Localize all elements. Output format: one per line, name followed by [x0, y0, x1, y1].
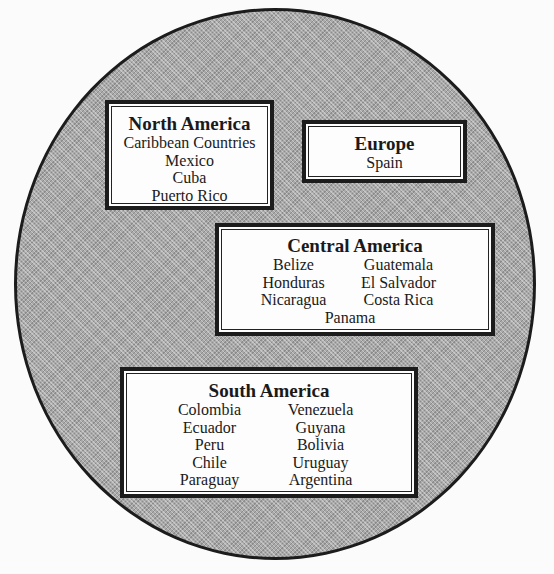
region-item: Guyana — [265, 419, 376, 437]
region-item: Cuba — [109, 169, 270, 187]
region-item: Caribbean Countries — [109, 134, 270, 152]
region-item: Colombia — [154, 401, 265, 419]
region-title: South America — [124, 381, 414, 401]
region-item: Puerto Rico — [109, 187, 270, 205]
region-item: Uruguay — [265, 454, 376, 472]
region-item: Peru — [154, 436, 265, 454]
region-item: Spain — [306, 154, 463, 172]
region-title: Europe — [306, 134, 463, 154]
region-item: Panama — [219, 309, 491, 327]
region-item: Venezuela — [265, 401, 376, 419]
region-item: Belize — [241, 256, 346, 274]
region-item: Guatemala — [346, 256, 451, 274]
region-box-central-america: Central America Belize Guatemala Hondura… — [215, 223, 495, 336]
region-item: Argentina — [265, 471, 376, 489]
region-box-south-america: South America Colombia Venezuela Ecuador… — [120, 367, 418, 498]
region-item: Chile — [154, 454, 265, 472]
region-item: Nicaragua — [241, 291, 346, 309]
region-box-europe: Europe Spain — [302, 120, 467, 183]
region-box-north-america: North America Caribbean Countries Mexico… — [105, 100, 274, 210]
region-item: El Salvador — [346, 274, 451, 292]
region-title: Central America — [219, 236, 491, 256]
region-item: Paraguay — [154, 471, 265, 489]
region-item: Ecuador — [154, 419, 265, 437]
region-item: Mexico — [109, 152, 270, 170]
region-item: Bolivia — [265, 436, 376, 454]
region-item: Honduras — [241, 274, 346, 292]
region-item: Costa Rica — [346, 291, 451, 309]
region-title: North America — [109, 114, 270, 134]
